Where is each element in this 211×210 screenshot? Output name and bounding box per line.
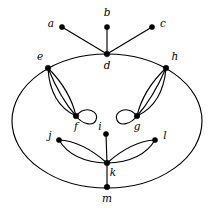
- vertex-dot-h[interactable]: [163, 65, 169, 71]
- vertex-dot-k[interactable]: [104, 160, 110, 166]
- edge-h-g-3: [137, 68, 166, 116]
- graph-canvas: abcdefghijklm: [0, 0, 211, 210]
- vertex-h[interactable]: h: [163, 50, 178, 71]
- vertex-dot-j[interactable]: [56, 137, 61, 142]
- edge-e-f-3: [48, 68, 76, 116]
- vertex-label-e: e: [37, 50, 43, 62]
- vertex-dot-l[interactable]: [152, 137, 157, 142]
- vertex-label-g: g: [134, 120, 141, 132]
- vertex-g[interactable]: g: [134, 113, 141, 132]
- vertex-label-h: h: [172, 50, 179, 62]
- vertex-c[interactable]: c: [149, 17, 166, 30]
- vertex-label-j: j: [46, 129, 52, 141]
- vertex-layer: abcdefghijklm: [37, 6, 178, 204]
- edge-f-self-loop: [76, 110, 97, 124]
- vertex-f[interactable]: f: [73, 113, 80, 132]
- vertex-label-b: b: [104, 6, 111, 18]
- edge-j-k-2: [59, 140, 107, 163]
- edge-a-d: [62, 27, 107, 54]
- edge-l-k-2: [107, 140, 155, 163]
- vertex-dot-a[interactable]: [59, 24, 64, 29]
- vertex-label-k: k: [110, 166, 116, 178]
- vertex-label-i: i: [98, 120, 101, 132]
- edge-i-k: [106, 134, 107, 163]
- vertex-dot-g[interactable]: [134, 113, 140, 119]
- vertex-a[interactable]: a: [48, 17, 65, 30]
- vertex-dot-c[interactable]: [149, 24, 154, 29]
- vertex-b[interactable]: b: [104, 6, 111, 30]
- graph-figure: abcdefghijklm: [0, 0, 211, 210]
- vertex-label-d: d: [104, 59, 111, 71]
- vertex-j[interactable]: j: [46, 129, 61, 143]
- vertex-i[interactable]: i: [98, 120, 108, 137]
- edge-h-g-2: [137, 68, 166, 116]
- vertex-m[interactable]: m: [102, 184, 112, 204]
- vertex-label-c: c: [160, 17, 166, 29]
- vertex-label-f: f: [73, 120, 80, 132]
- vertex-label-m: m: [102, 192, 112, 204]
- vertex-dot-d[interactable]: [104, 51, 110, 57]
- vertex-dot-f[interactable]: [73, 113, 79, 119]
- edge-h-g-1: [137, 68, 166, 116]
- vertex-d[interactable]: d: [104, 51, 111, 71]
- vertex-label-a: a: [48, 17, 54, 29]
- vertex-e[interactable]: e: [37, 50, 51, 71]
- vertex-dot-e[interactable]: [45, 65, 51, 71]
- edge-c-d: [107, 27, 152, 54]
- edge-e-f-1: [48, 68, 76, 116]
- vertex-label-l: l: [163, 129, 166, 141]
- edge-e-f-2: [48, 68, 76, 116]
- vertex-dot-i[interactable]: [103, 131, 108, 136]
- vertex-l[interactable]: l: [152, 129, 166, 143]
- vertex-dot-m[interactable]: [104, 184, 110, 190]
- vertex-dot-b[interactable]: [104, 24, 109, 29]
